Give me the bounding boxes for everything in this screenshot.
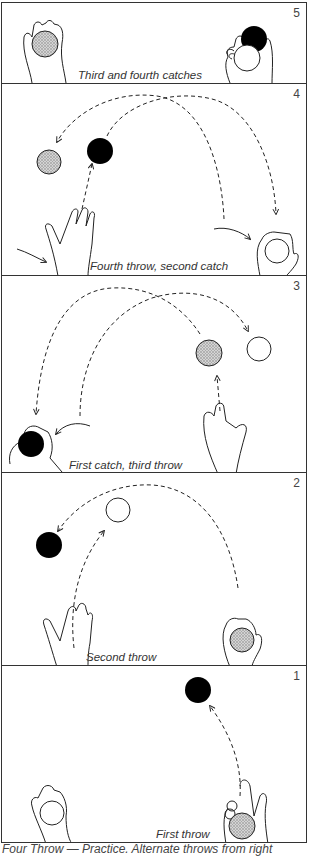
throw-arc [36, 288, 200, 414]
stippled-ball-icon [196, 340, 222, 366]
left-hand-icon [17, 208, 95, 276]
stippled-ball-icon [230, 628, 254, 652]
throw-arc [58, 485, 238, 588]
throw-arc [80, 293, 248, 416]
throw-arc [107, 96, 276, 214]
panel-5: 5 Third and fourth catches [1, 2, 307, 84]
throw-arc [217, 376, 220, 411]
stippled-ball-icon [229, 813, 255, 839]
black-ball-icon [36, 532, 62, 558]
panel-1: 1 First throw [1, 665, 307, 843]
panel-2: 2 Second throw [1, 472, 307, 666]
panel-caption: Second throw [86, 651, 156, 663]
white-ball-icon [234, 45, 260, 71]
black-ball-icon [87, 138, 113, 164]
throw-arc [73, 531, 104, 648]
panel-number: 5 [293, 6, 300, 20]
panel-number: 3 [293, 279, 300, 293]
panel-caption: Fourth throw, second catch [90, 260, 228, 272]
panel-3-illustration [2, 276, 307, 473]
panel-caption: Third and fourth catches [78, 69, 202, 81]
throw-arc [210, 706, 240, 796]
panel-3: 3 First catch, third throw [1, 275, 307, 473]
stippled-ball-icon [37, 150, 61, 174]
white-ball-icon [40, 801, 64, 825]
white-ball-icon [265, 239, 289, 263]
throw-arc [57, 95, 224, 219]
panel-1-illustration [2, 666, 307, 843]
white-ball-icon [106, 498, 130, 522]
panel-number: 2 [293, 476, 300, 490]
figure-caption: Four Throw — Practice. Alternate throws … [2, 842, 272, 856]
stippled-ball-icon [32, 31, 58, 57]
panel-number: 1 [293, 669, 300, 683]
panel-4: 4 Fourth throw, second catch [1, 83, 307, 276]
panel-2-illustration [2, 473, 307, 666]
white-ball-icon [247, 337, 271, 361]
panel-caption: First catch, third throw [69, 459, 182, 471]
panel-4-illustration [2, 84, 307, 276]
panel-number: 4 [293, 87, 300, 101]
panel-caption: First throw [156, 828, 210, 840]
right-hand-icon [204, 403, 247, 473]
black-ball-icon [18, 431, 44, 457]
black-ball-icon [185, 677, 211, 703]
throw-arc [82, 164, 92, 209]
